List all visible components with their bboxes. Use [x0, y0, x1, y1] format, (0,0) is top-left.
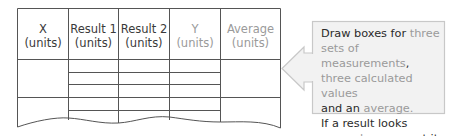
header-x: X (units)	[18, 16, 68, 56]
callout-line: If a result looks	[321, 116, 445, 131]
header-result-2: Result 2 (units)	[119, 16, 169, 56]
callout-line: anomalous, repeat it.	[321, 131, 445, 136]
callout-line: three calculated values	[321, 71, 445, 101]
header-average: Average (units)	[221, 16, 280, 56]
callout-line: and an average.	[321, 101, 445, 116]
callout-text: Draw boxes for three sets of measurement…	[312, 21, 445, 114]
callout-line: sets of measurements,	[321, 41, 445, 71]
header-result-1: Result 1 (units)	[69, 16, 118, 56]
arrow-left-icon	[282, 47, 313, 90]
header-y: Y (units)	[170, 16, 220, 56]
callout-line: Draw boxes for three	[321, 26, 445, 41]
